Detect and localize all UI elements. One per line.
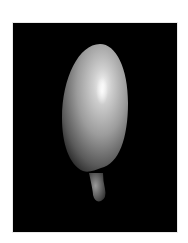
render-frame [13, 23, 177, 232]
egg-render [13, 23, 177, 232]
egg-body [62, 44, 128, 172]
egg-highlight [96, 77, 108, 105]
egg-tip [89, 173, 106, 201]
